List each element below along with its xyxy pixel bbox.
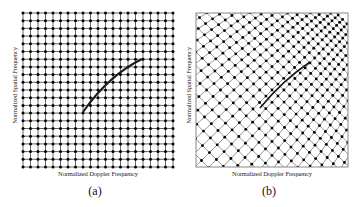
y-axis-label-b: Normalized Spatial Frequency: [185, 36, 192, 136]
panel-a: Normalized Spatial Frequency Normalized …: [0, 0, 178, 207]
x-axis-label-a: Normalized Doppler Frequency: [48, 170, 148, 177]
grid-plot-b: [195, 12, 349, 168]
caption-a: (a): [80, 184, 110, 199]
caption-b: (b): [254, 184, 284, 199]
y-axis-label-a: Normalized Spatial Frequency: [11, 36, 18, 136]
panel-b: Normalized Spatial Frequency Normalized …: [178, 0, 356, 207]
x-axis-label-b: Normalized Doppler Frequency: [222, 170, 322, 177]
grid-plot-a: [21, 11, 177, 169]
